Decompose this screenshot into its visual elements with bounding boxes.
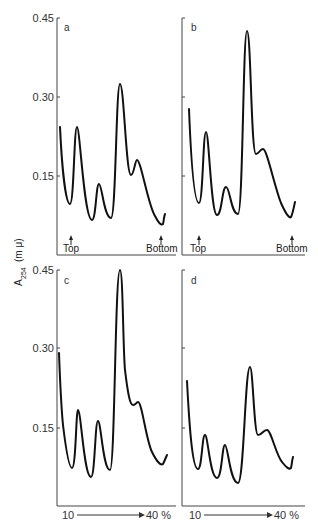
panel-letter-d: d xyxy=(191,275,197,286)
svg-text:Top: Top xyxy=(190,243,207,254)
top-marker-b: Top xyxy=(190,235,207,254)
ytick-015-c: 0.15 xyxy=(33,422,54,434)
sedimentation-profile-figure: A 254 (m μ) 0.45 0.30 0.15 a Top Bottom … xyxy=(0,0,318,524)
svg-text:Bottom: Bottom xyxy=(276,243,308,254)
panel-d: d 10 40 % xyxy=(182,270,305,521)
panel-d-curve xyxy=(187,367,293,483)
svg-text:(m μ): (m μ) xyxy=(13,238,24,262)
panel-a-curve xyxy=(60,84,165,225)
ytick-030-a: 0.30 xyxy=(33,91,54,103)
svg-text:40 %: 40 % xyxy=(274,509,299,521)
ytick-045-c: 0.45 xyxy=(33,264,54,276)
panel-a: 0.45 0.30 0.15 a Top Bottom xyxy=(33,12,178,255)
top-marker-a: Top xyxy=(63,235,80,254)
panel-b-curve xyxy=(189,31,295,217)
svg-text:40 %: 40 % xyxy=(146,509,171,521)
panel-letter-b: b xyxy=(191,22,197,33)
panel-letter-a: a xyxy=(64,22,70,33)
svg-text:10: 10 xyxy=(62,509,74,521)
panel-c-curve xyxy=(59,270,167,477)
panel-b: b Top Bottom xyxy=(182,18,308,255)
svg-text:Bottom: Bottom xyxy=(146,243,178,254)
panel-c: 0.45 0.30 0.15 c 10 40 % xyxy=(33,264,176,521)
svg-text:254: 254 xyxy=(20,267,27,279)
x-axis-label-d: 10 40 % xyxy=(189,509,299,521)
bottom-marker-b: Bottom xyxy=(276,235,308,254)
ytick-045-a: 0.45 xyxy=(33,12,54,24)
svg-text:10: 10 xyxy=(189,509,201,521)
panel-d-axes xyxy=(182,270,305,506)
y-axis-label: A 254 (m μ) xyxy=(13,238,27,286)
ytick-030-c: 0.30 xyxy=(33,342,54,354)
svg-text:Top: Top xyxy=(63,243,80,254)
ytick-015-a: 0.15 xyxy=(33,170,54,182)
bottom-marker-a: Bottom xyxy=(146,235,178,254)
panel-letter-c: c xyxy=(64,275,69,286)
svg-text:A: A xyxy=(13,279,24,286)
x-axis-label-c: 10 40 % xyxy=(62,509,171,521)
